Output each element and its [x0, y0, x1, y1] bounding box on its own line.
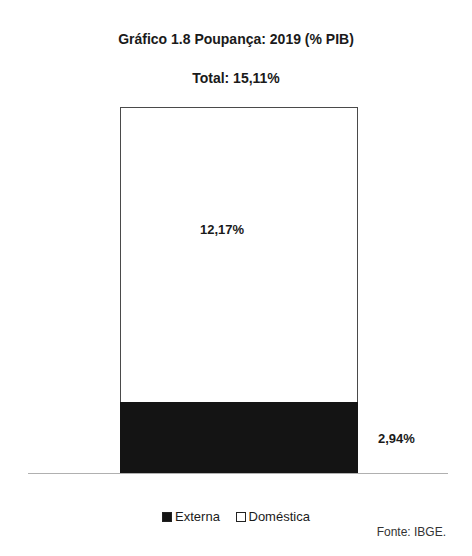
bar-segment-externa	[120, 402, 358, 473]
source-note: Fonte: IBGE.	[377, 525, 446, 539]
legend-item-domestica: Doméstica	[236, 509, 310, 524]
label-domestica: 12,17%	[200, 222, 244, 237]
legend-swatch-domestica-icon	[236, 512, 246, 522]
legend-item-externa: Externa	[162, 509, 220, 524]
legend-label-domestica: Doméstica	[249, 509, 310, 524]
legend-swatch-externa-icon	[162, 512, 172, 522]
label-externa: 2,94%	[378, 431, 415, 446]
bar-segment-domestica	[120, 107, 358, 402]
legend-label-externa: Externa	[175, 509, 220, 524]
chart-title: Gráfico 1.8 Poupança: 2019 (% PIB)	[0, 31, 472, 47]
legend: Externa Doméstica	[0, 509, 472, 525]
x-axis-baseline	[28, 473, 448, 474]
chart-subtitle-total: Total: 15,11%	[0, 70, 472, 86]
